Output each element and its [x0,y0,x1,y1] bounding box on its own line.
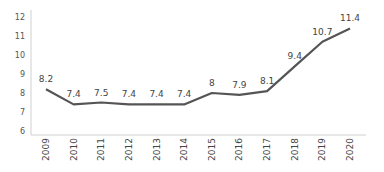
y-tick-label: 6 [20,127,25,136]
data-label: 7.9 [232,80,247,90]
data-label: 8.2 [39,74,53,84]
data-label: 9.4 [288,51,303,61]
x-tick-label: 2017 [262,138,272,161]
x-tick-label: 2020 [345,138,355,161]
y-tick-label: 10 [15,51,25,60]
data-labels: 8.27.47.57.47.47.487.98.19.410.711.4 [39,13,360,99]
x-tick-label: 2012 [124,138,134,161]
data-label: 7.4 [122,89,137,99]
x-tick-label: 2010 [69,138,79,161]
x-tick-label: 2014 [179,138,189,161]
data-label: 7.4 [177,89,192,99]
data-label: 7.5 [94,88,108,98]
series-line [46,28,350,104]
y-axis: 6789101112 [15,10,31,136]
x-tick-label: 2016 [234,138,244,161]
x-tick-label: 2018 [290,138,300,161]
x-tick-label: 2019 [317,138,327,161]
data-label: 8 [209,78,215,88]
data-label: 8.1 [260,76,274,86]
data-label: 11.4 [340,13,360,23]
x-tick-label: 2009 [41,138,51,161]
data-label: 7.4 [66,89,81,99]
y-tick-label: 11 [15,32,25,41]
x-tick-label: 2015 [207,138,217,161]
x-axis: 2009201020112012201320142015201620172018… [31,135,366,161]
data-label: 7.4 [149,89,164,99]
y-tick-label: 8 [20,89,25,98]
x-tick-label: 2011 [96,138,106,161]
x-tick-label: 2013 [152,138,162,161]
series-polyline [46,28,350,104]
y-tick-label: 7 [20,108,25,117]
data-label: 10.7 [312,27,332,37]
line-chart: 6789101112 20092010201120122013201420152… [0,0,384,172]
y-tick-label: 9 [20,70,25,79]
y-tick-label: 12 [15,13,25,22]
